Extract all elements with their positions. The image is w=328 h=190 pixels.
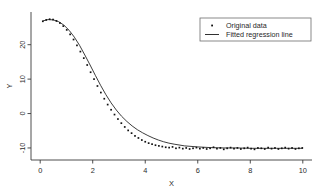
x-axis-title: X xyxy=(169,179,174,188)
data-point xyxy=(274,147,276,149)
data-point xyxy=(281,147,283,149)
data-point xyxy=(257,147,259,149)
x-tick-label: 2 xyxy=(91,166,95,175)
data-point xyxy=(155,144,157,146)
data-point xyxy=(80,51,82,53)
data-point xyxy=(83,57,85,59)
data-point xyxy=(295,148,297,150)
data-point xyxy=(288,148,290,150)
data-point xyxy=(103,98,105,100)
data-point xyxy=(216,148,218,150)
data-point xyxy=(100,92,102,94)
data-point xyxy=(165,146,167,148)
y-tick-label: 0 xyxy=(19,111,28,115)
data-point xyxy=(247,147,249,149)
data-point xyxy=(148,142,150,144)
data-point xyxy=(62,25,64,27)
data-point xyxy=(264,148,266,150)
data-point xyxy=(141,139,143,141)
data-point xyxy=(59,22,61,24)
data-point xyxy=(196,147,198,149)
data-point xyxy=(298,147,300,149)
data-point xyxy=(220,147,222,149)
x-tick-label: 0 xyxy=(38,166,42,175)
data-point xyxy=(182,148,184,150)
data-point xyxy=(301,147,303,149)
data-point xyxy=(124,126,126,128)
data-point xyxy=(97,85,99,87)
data-point xyxy=(117,118,119,120)
data-point xyxy=(69,34,71,36)
legend-label-original-data: Original data xyxy=(226,21,267,30)
data-point xyxy=(189,148,191,150)
data-point xyxy=(86,64,88,66)
data-point xyxy=(223,148,225,150)
y-tick-label: 20 xyxy=(19,41,28,49)
data-point xyxy=(202,147,204,149)
data-point xyxy=(144,141,146,143)
data-point xyxy=(226,147,228,149)
data-point xyxy=(175,147,177,149)
data-point xyxy=(93,78,95,80)
data-point xyxy=(192,147,194,149)
data-point xyxy=(158,145,160,147)
data-point xyxy=(110,109,112,111)
data-point xyxy=(52,19,54,21)
y-tick-label: -10 xyxy=(19,143,28,154)
data-point xyxy=(260,147,262,149)
x-tick-label: 10 xyxy=(299,166,307,175)
chart-canvas: 0246810-1001020 Original dataFitted regr… xyxy=(0,0,328,190)
data-point xyxy=(199,148,201,150)
data-point xyxy=(271,148,273,150)
data-point xyxy=(168,147,170,149)
data-point xyxy=(134,135,136,137)
data-point xyxy=(45,19,47,21)
chart-figure: 0246810-1001020 Original dataFitted regr… xyxy=(0,0,328,190)
y-axis-title: Y xyxy=(5,83,14,88)
x-tick-label: 4 xyxy=(143,166,147,175)
data-point xyxy=(56,20,58,22)
data-point xyxy=(131,132,133,134)
data-point xyxy=(250,148,252,150)
data-point xyxy=(230,147,232,149)
data-point xyxy=(179,147,181,149)
data-point xyxy=(138,137,140,139)
data-point xyxy=(213,146,215,148)
data-point xyxy=(284,147,286,149)
x-tick-label: 8 xyxy=(248,166,252,175)
data-point xyxy=(185,147,187,149)
data-point xyxy=(291,147,293,149)
data-point xyxy=(254,148,256,150)
data-point xyxy=(114,114,116,116)
data-point xyxy=(206,148,208,150)
legend-label-fitted-line: Fitted regression line xyxy=(226,30,293,39)
data-point xyxy=(107,104,109,106)
data-point xyxy=(237,147,239,149)
data-point xyxy=(42,20,44,22)
x-tick-label: 6 xyxy=(196,166,200,175)
data-point xyxy=(161,146,163,148)
data-point xyxy=(267,147,269,149)
chart-legend: Original dataFitted regression line xyxy=(200,18,311,41)
data-point xyxy=(49,18,51,20)
data-point xyxy=(90,71,92,73)
y-tick-label: 10 xyxy=(19,75,28,83)
data-point xyxy=(151,143,153,145)
data-point xyxy=(240,148,242,150)
data-point xyxy=(172,146,174,148)
data-point xyxy=(243,147,245,149)
data-point xyxy=(233,148,235,150)
legend-marker-original-data xyxy=(211,25,213,27)
data-point xyxy=(120,122,122,124)
data-point xyxy=(73,39,75,41)
data-point xyxy=(127,130,129,132)
data-point xyxy=(76,45,78,47)
data-point xyxy=(209,147,211,149)
data-point xyxy=(66,29,68,31)
data-point xyxy=(278,148,280,150)
